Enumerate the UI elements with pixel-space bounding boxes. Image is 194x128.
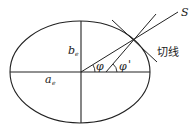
label-a-sub: e: [52, 79, 56, 86]
label-tangent: 切线: [157, 45, 179, 59]
label-b: b: [68, 44, 75, 57]
label-s: S: [181, 6, 189, 19]
label-prime: ': [128, 58, 131, 71]
label-a: a: [45, 73, 52, 86]
label-b-sub: e: [75, 50, 79, 57]
label-phi-prime: φ: [119, 60, 127, 73]
angle-arc-phi-prime: [113, 64, 117, 72]
label-phi: φ: [96, 60, 104, 73]
angle-arc-phi: [93, 65, 95, 72]
tangent-line: [112, 20, 157, 62]
ellipse-diagram: b e a e φ φ ' S 切线: [0, 0, 194, 128]
